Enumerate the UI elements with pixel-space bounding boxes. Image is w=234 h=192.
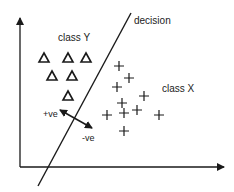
triangle-marker-icon [63,91,73,100]
decision-boundary-diagram: decision class Y class X +ve -ve [0,0,234,192]
triangle-marker-icon [39,53,49,62]
plus-marker-icon [112,82,122,92]
plus-marker-icon [132,105,142,115]
plus-marker-icon [119,108,129,118]
class-x-label: class X [162,83,195,94]
class-y-points [39,53,91,100]
margin-double-arrow [60,110,92,128]
plus-marker-icon [119,126,129,136]
triangle-marker-icon [47,71,57,80]
positive-side-label: +ve [43,109,58,119]
decision-label: decision [134,15,171,26]
plus-marker-icon [124,73,134,83]
plus-marker-icon [139,91,149,101]
class-x-points [102,61,164,136]
plus-marker-icon [117,98,127,108]
triangle-marker-icon [81,53,91,62]
negative-side-label: -ve [82,133,95,143]
triangle-marker-icon [63,53,73,62]
class-y-label: class Y [58,32,90,43]
plus-marker-icon [102,110,112,120]
triangle-marker-icon [67,71,77,80]
plus-marker-icon [154,110,164,120]
plus-marker-icon [114,61,124,71]
